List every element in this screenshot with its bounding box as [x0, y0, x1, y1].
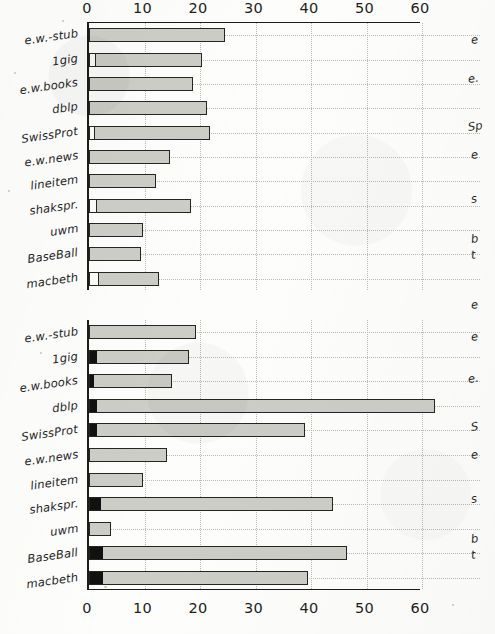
y-axis-label: BaseBall: [27, 246, 79, 267]
bar-row: [89, 374, 420, 388]
bar-row: [89, 325, 420, 339]
axis-tick: 30: [244, 600, 263, 616]
axis-tick: 20: [188, 0, 207, 16]
bar-row: [89, 571, 420, 585]
cutoff-label-fragment: e: [470, 297, 479, 312]
bottom-axis-ticks: 0102030405060: [0, 600, 495, 620]
bar: [89, 223, 143, 237]
axis-tick: 60: [410, 600, 429, 616]
bar-row: [89, 247, 420, 261]
y-axis-label: 1gig: [51, 349, 79, 366]
bar-grey-segment: [94, 375, 171, 387]
bar-row: [89, 497, 420, 511]
bar-grey-segment: [97, 200, 190, 212]
y-axis-label: uwm: [49, 221, 79, 239]
bar: [89, 448, 167, 462]
bar: [89, 77, 193, 91]
y-axis-label: e.w.-stub: [23, 26, 79, 47]
bar-dark-segment: [90, 572, 103, 584]
bar-row: [89, 77, 420, 91]
bar-row: [89, 399, 420, 413]
bar: [89, 325, 196, 339]
bar-dark-segment: [90, 400, 97, 412]
bar-grey-segment: [90, 224, 142, 236]
bar-grey-segment: [90, 29, 224, 41]
bar: [89, 174, 156, 188]
axis-tick: 20: [188, 600, 207, 616]
bar-grey-segment: [90, 326, 195, 338]
y-axis-label: macbeth: [25, 570, 79, 591]
y-axis-label: e.w.news: [23, 148, 79, 169]
y-axis-label: e.w.books: [19, 75, 79, 97]
bar-row: [89, 223, 420, 237]
bar-grey-segment: [103, 547, 346, 559]
bar-row: [89, 53, 420, 67]
axis-tick: 40: [299, 0, 318, 16]
y-axis-label: 1gig: [51, 51, 79, 68]
bar-row: [89, 522, 420, 536]
bar: [89, 150, 170, 164]
bar-row: [89, 174, 420, 188]
bar-grey-segment: [90, 474, 142, 486]
y-axis-label: e.w.books: [19, 373, 79, 395]
chart-panel-lower: e.w.-stub1gige.w.booksdblpSwissProte.w.n…: [0, 320, 495, 590]
bar-dark-segment: [90, 547, 103, 559]
bar-row: [89, 101, 420, 115]
bar-row: [89, 546, 420, 560]
bar-grey-segment: [90, 151, 169, 163]
bar-row: [89, 423, 420, 437]
bar: [89, 350, 189, 364]
bar: [89, 473, 143, 487]
y-axis-label: BaseBall: [27, 545, 79, 566]
bar: [89, 126, 210, 140]
bar: [89, 272, 159, 286]
plot-area-upper: [87, 22, 420, 290]
y-axis-labels-upper: e.w.-stub1gige.w.booksdblpSwissProte.w.n…: [0, 22, 82, 290]
bar-row: [89, 199, 420, 213]
axis-tick: 50: [355, 0, 374, 16]
y-axis-label: uwm: [49, 521, 79, 539]
axis-tick: 0: [82, 600, 92, 616]
bar-grey-segment: [90, 449, 166, 461]
chart-panel-upper: e.w.-stub1gige.w.booksdblpSwissProte.w.n…: [0, 22, 495, 290]
bar-row: [89, 272, 420, 286]
scanned-figure: 0102030405060 e.w.-stub1gige.w.booksdblp…: [0, 0, 495, 634]
bar-grey-segment: [90, 248, 140, 260]
bar-row: [89, 150, 420, 164]
bar: [89, 522, 111, 536]
axis-tick: 40: [299, 600, 318, 616]
bar-grey-segment: [90, 78, 192, 90]
bar-row: [89, 448, 420, 462]
bar: [89, 247, 141, 261]
bar-grey-segment: [97, 400, 434, 412]
axis-tick: 60: [410, 0, 429, 16]
bar-dark-segment: [90, 424, 97, 436]
y-axis-label: dblp: [51, 99, 79, 116]
bar: [89, 546, 347, 560]
bar-white-segment: [90, 200, 97, 212]
bar-row: [89, 350, 420, 364]
y-axis-label: lineitem: [29, 472, 79, 493]
bar-grey-segment: [99, 273, 158, 285]
top-axis-ticks: 0102030405060: [0, 0, 495, 20]
bar-row: [89, 126, 420, 140]
y-axis-label: e.w.news: [23, 447, 79, 468]
bar-grey-segment: [103, 572, 307, 584]
axis-tick: 50: [355, 600, 374, 616]
bar: [89, 53, 202, 67]
plot-area-lower: [87, 320, 420, 590]
bar: [89, 199, 191, 213]
bar: [89, 399, 435, 413]
y-axis-label: e.w.-stub: [23, 324, 79, 345]
y-axis-label: SwissProt: [21, 423, 79, 445]
bar-row: [89, 28, 420, 42]
bar: [89, 101, 207, 115]
axis-tick: 0: [82, 0, 92, 16]
y-axis-label: dblp: [51, 398, 79, 415]
bar-grey-segment: [90, 523, 110, 535]
bar-grey-segment: [101, 498, 332, 510]
bar: [89, 497, 333, 511]
y-axis-label: macbeth: [25, 270, 79, 291]
bar-grey-segment: [96, 54, 201, 66]
bar-grey-segment: [90, 175, 155, 187]
